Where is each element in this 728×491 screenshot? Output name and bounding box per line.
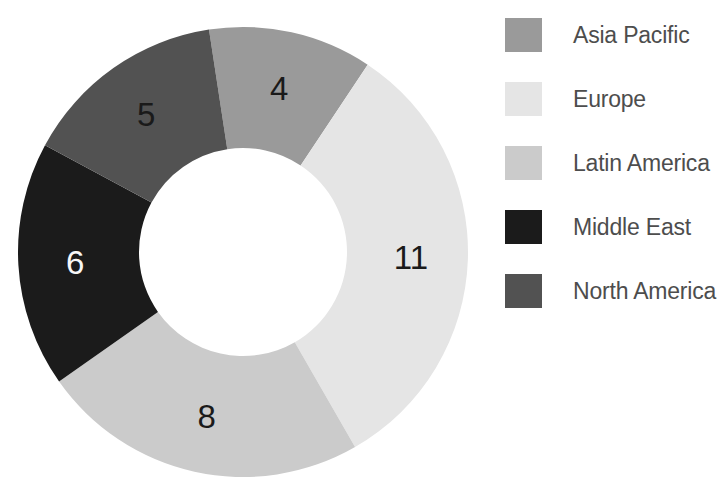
slice-value-label-latin-america: 8 xyxy=(198,398,216,435)
slice-value-label-asia-pacific: 4 xyxy=(270,70,288,107)
legend-item-europe: Europe xyxy=(505,82,716,116)
legend-label-asia-pacific: Asia Pacific xyxy=(573,22,689,49)
legend-swatch-middle-east xyxy=(505,210,542,244)
legend-label-latin-america: Latin America xyxy=(573,150,710,177)
slice-value-label-europe: 11 xyxy=(394,239,428,276)
legend-item-asia-pacific: Asia Pacific xyxy=(505,18,716,52)
slice-value-label-north-america: 5 xyxy=(137,96,155,133)
legend-label-europe: Europe xyxy=(573,86,646,113)
legend-swatch-asia-pacific xyxy=(505,18,542,52)
legend-swatch-north-america xyxy=(505,274,542,308)
legend-label-north-america: North America xyxy=(573,278,716,305)
donut-chart-figure: 411865 Asia PacificEuropeLatin AmericaMi… xyxy=(0,0,728,491)
legend-swatch-latin-america xyxy=(505,146,542,180)
legend-item-latin-america: Latin America xyxy=(505,146,716,180)
legend-item-north-america: North America xyxy=(505,274,716,308)
legend-item-middle-east: Middle East xyxy=(505,210,716,244)
legend-swatch-europe xyxy=(505,82,542,116)
slice-value-label-middle-east: 6 xyxy=(66,244,84,281)
legend-label-middle-east: Middle East xyxy=(573,214,691,241)
legend: Asia PacificEuropeLatin AmericaMiddle Ea… xyxy=(505,18,716,308)
